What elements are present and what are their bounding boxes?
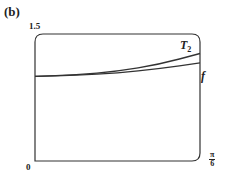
plot-frame — [35, 34, 200, 161]
f-curve-label: f — [201, 69, 205, 84]
plot-area — [0, 0, 245, 180]
t2-curve-label: T2 — [180, 38, 191, 54]
f-curve — [35, 63, 200, 77]
